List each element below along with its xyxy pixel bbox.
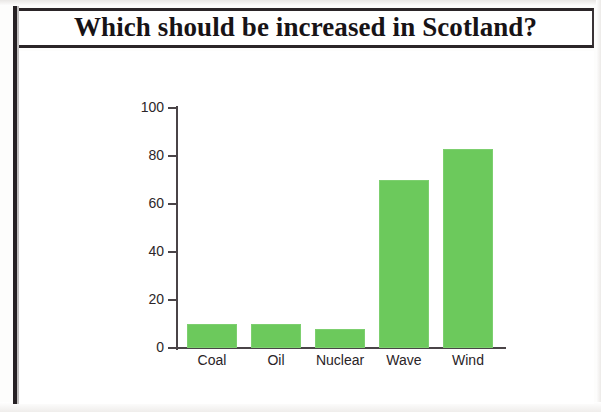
scan-artifact-top xyxy=(0,0,601,6)
scanned-page: Which should be increased in Scotland? 1… xyxy=(0,0,601,412)
chart-title-box: Which should be increased in Scotland? xyxy=(19,8,594,48)
page-title: Which should be increased in Scotland? xyxy=(19,12,592,43)
scan-artifact-right xyxy=(596,0,601,412)
chart-panel xyxy=(19,51,594,404)
